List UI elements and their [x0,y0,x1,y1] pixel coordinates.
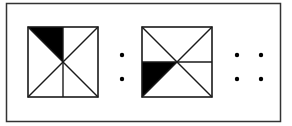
four-dots [235,53,263,81]
colon-dots [120,53,124,81]
square-2 [142,27,212,97]
analogy-diagram [0,0,292,126]
square-1 [28,27,98,97]
